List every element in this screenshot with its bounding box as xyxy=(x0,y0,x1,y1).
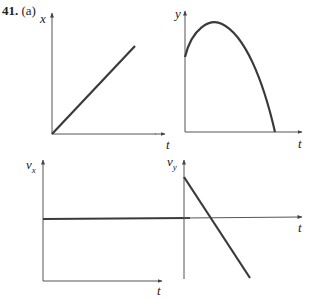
graph4-ylabel: vy xyxy=(167,154,177,172)
graph3-xlabel: t xyxy=(157,283,161,299)
graph-y-vs-t xyxy=(185,11,302,132)
graph2-ylabel: y xyxy=(175,6,181,22)
graph-x-vs-t xyxy=(52,13,156,134)
graph4-ylabel-sub: y xyxy=(173,162,177,172)
graph-vy-vs-t xyxy=(184,160,302,279)
graph3-ylabel: vx xyxy=(26,157,36,175)
graph-vx-vs-t xyxy=(43,160,190,281)
graph1-ylabel: x xyxy=(40,11,46,27)
graph1-xlabel: t xyxy=(166,137,170,153)
graph4-xlabel: t xyxy=(298,220,302,236)
graph2-xlabel: t xyxy=(298,136,302,152)
graph3-ylabel-sub: x xyxy=(32,165,36,175)
